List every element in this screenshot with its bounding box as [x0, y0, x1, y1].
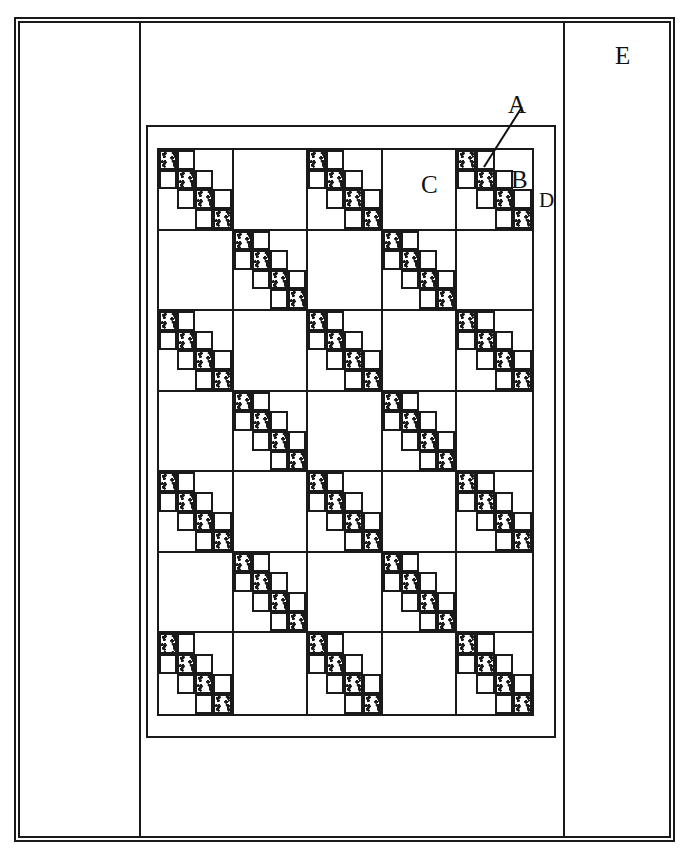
patch-print-square	[213, 370, 231, 390]
patch-plain-large	[363, 472, 381, 492]
patch-plain-large	[288, 250, 306, 270]
quilt-top-grid	[157, 148, 534, 716]
quilt-block-plain	[457, 392, 532, 473]
label-d: D	[539, 190, 554, 211]
patch-print-square	[476, 492, 495, 512]
quilt-block-chain	[308, 311, 383, 392]
patch-plain-large	[159, 370, 177, 390]
patch-plain-large	[476, 694, 495, 714]
quilt-block-plain	[308, 392, 383, 473]
patch-plain-large	[419, 553, 437, 573]
quilt-block-plain	[159, 553, 234, 634]
patch-plain-square	[270, 612, 288, 632]
quilt-block-plain	[383, 472, 458, 553]
patch-print-square	[159, 311, 177, 331]
patch-plain-large	[383, 451, 401, 471]
patch-plain-square	[213, 674, 231, 694]
quilt-block-chain	[383, 392, 458, 473]
patch-plain-large	[513, 633, 532, 653]
patch-plain-square	[213, 512, 231, 532]
quilt-block-chain	[457, 633, 532, 714]
patch-print-square	[177, 492, 195, 512]
patch-print-square	[326, 492, 344, 512]
patch-print-square	[213, 531, 231, 551]
patch-plain-large	[495, 472, 514, 492]
patch-plain-square	[401, 553, 419, 573]
patch-plain-large	[234, 431, 252, 451]
patch-print-square	[195, 674, 213, 694]
patch-plain-square	[419, 411, 437, 431]
patch-plain-square	[401, 270, 419, 290]
patch-plain-large	[159, 674, 177, 694]
patch-plain-square	[437, 592, 455, 612]
patch-plain-square	[437, 270, 455, 290]
patch-plain-large	[326, 209, 344, 229]
chain-block-grid	[457, 472, 532, 551]
patch-plain-square	[401, 431, 419, 451]
patch-plain-square	[252, 392, 270, 412]
patch-print-square	[177, 170, 195, 190]
patch-print-square	[326, 654, 344, 674]
quilt-block-chain	[383, 231, 458, 312]
quilt-block-plain	[234, 472, 309, 553]
patch-print-square	[363, 531, 381, 551]
chain-block-grid	[234, 231, 307, 310]
quilt-block-chain	[159, 311, 234, 392]
patch-plain-square	[177, 472, 195, 492]
patch-print-square	[270, 592, 288, 612]
outer-border-right-seam	[563, 23, 565, 836]
patch-plain-large	[457, 350, 476, 370]
patch-print-square	[159, 472, 177, 492]
patch-plain-square	[344, 331, 362, 351]
patch-plain-square	[270, 451, 288, 471]
patch-plain-square	[177, 512, 195, 532]
patch-plain-large	[177, 370, 195, 390]
quilt-block-plain	[159, 231, 234, 312]
patch-print-square	[344, 189, 362, 209]
patch-plain-large	[457, 531, 476, 551]
patch-plain-square	[159, 654, 177, 674]
patch-plain-square	[195, 209, 213, 229]
patch-plain-large	[363, 654, 381, 674]
patch-plain-large	[234, 270, 252, 290]
patch-plain-square	[363, 350, 381, 370]
patch-plain-large	[344, 633, 362, 653]
patch-plain-square	[476, 189, 495, 209]
patch-plain-square	[195, 694, 213, 714]
patch-print-square	[363, 694, 381, 714]
patch-print-square	[383, 553, 401, 573]
patch-print-square	[326, 170, 344, 190]
patch-plain-square	[457, 331, 476, 351]
patch-plain-large	[213, 331, 231, 351]
patch-plain-large	[159, 694, 177, 714]
quilt-block-plain	[457, 231, 532, 312]
patch-plain-large	[363, 311, 381, 331]
patch-plain-square	[252, 431, 270, 451]
patch-plain-square	[288, 270, 306, 290]
patch-print-square	[363, 370, 381, 390]
chain-block-grid	[159, 150, 232, 229]
quilt-block-chain	[308, 633, 383, 714]
chain-block-grid	[159, 633, 232, 714]
patch-print-square	[513, 209, 532, 229]
patch-print-square	[159, 633, 177, 653]
patch-plain-square	[495, 531, 514, 551]
patch-print-square	[213, 694, 231, 714]
patch-plain-large	[213, 654, 231, 674]
patch-print-square	[159, 150, 177, 170]
patch-print-square	[234, 553, 252, 573]
patch-plain-square	[159, 492, 177, 512]
patch-plain-square	[308, 331, 326, 351]
patch-plain-large	[234, 451, 252, 471]
patch-plain-square	[476, 633, 495, 653]
patch-plain-large	[363, 331, 381, 351]
patch-plain-square	[195, 370, 213, 390]
quilt-block-plain	[234, 311, 309, 392]
patch-plain-square	[513, 674, 532, 694]
patch-plain-large	[308, 350, 326, 370]
patch-print-square	[383, 231, 401, 251]
patch-plain-large	[344, 472, 362, 492]
patch-plain-square	[326, 189, 344, 209]
patch-print-square	[234, 392, 252, 412]
patch-plain-large	[513, 472, 532, 492]
